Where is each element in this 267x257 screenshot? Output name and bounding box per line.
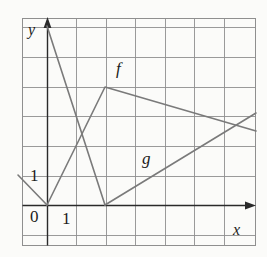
origin-tick-label: 0	[30, 208, 39, 225]
y-axis-label: y	[28, 22, 35, 38]
plot-border	[23, 19, 256, 246]
graph-figure: y x 0 1 1 f g	[0, 0, 267, 257]
y-tick-label-1: 1	[30, 167, 39, 184]
x-tick-label-1: 1	[62, 210, 71, 227]
plot-canvas	[0, 0, 267, 257]
curve-label-f: f	[116, 60, 121, 77]
curve-label-g: g	[142, 150, 151, 167]
x-axis-label: x	[233, 222, 240, 238]
